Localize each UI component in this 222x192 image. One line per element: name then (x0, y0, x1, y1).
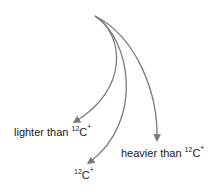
mass-number: 12 (71, 125, 79, 132)
charge: + (90, 166, 94, 173)
ion-trajectory-diagram (0, 0, 222, 192)
element-symbol: C (82, 169, 90, 181)
charge: + (200, 144, 204, 151)
mass-number: 12 (74, 168, 82, 175)
mass-number: 12 (185, 146, 193, 153)
label-heavier: heavier than 12C+ (121, 148, 204, 159)
label-lighter-prefix: lighter than (14, 126, 71, 138)
label-lighter: lighter than 12C+ (14, 127, 91, 138)
charge: + (87, 123, 91, 130)
label-heavier-prefix: heavier than (121, 147, 185, 159)
label-equal: 12C+ (74, 170, 94, 181)
